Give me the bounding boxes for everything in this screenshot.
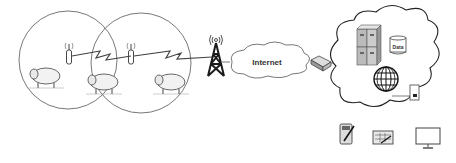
internet-label: Internet bbox=[252, 58, 282, 67]
data-label: Data bbox=[393, 44, 404, 50]
wireless-link-2 bbox=[134, 51, 212, 59]
spreadsheet-tablet-icon bbox=[373, 131, 393, 144]
sheep-icon bbox=[153, 74, 189, 94]
relay-antenna-icon bbox=[65, 43, 73, 64]
tablet-pen-icon bbox=[340, 124, 354, 144]
monitor-icon bbox=[416, 128, 440, 148]
gateway-router-icon bbox=[311, 56, 331, 71]
globe-icon bbox=[374, 67, 398, 91]
sheep-icon bbox=[86, 74, 122, 94]
coverage-zone-2 bbox=[91, 13, 191, 113]
cell-tower-icon bbox=[208, 35, 224, 76]
sheep-icon bbox=[28, 68, 64, 88]
wireless-link-1 bbox=[72, 51, 131, 60]
server-rack-icon bbox=[357, 25, 381, 65]
relay-antenna-icon bbox=[127, 43, 135, 64]
network-diagram: Internet Data bbox=[0, 0, 456, 163]
